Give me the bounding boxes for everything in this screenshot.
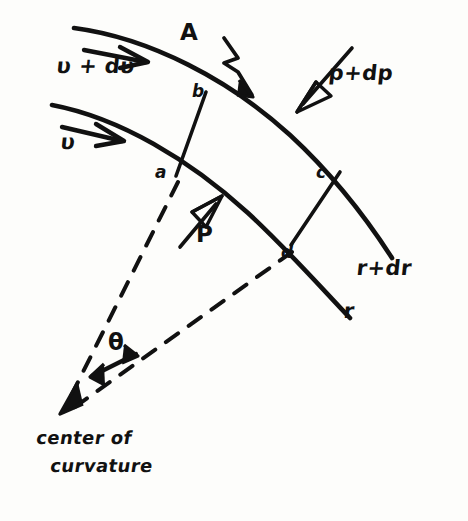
hand-drawn-diagram-canvas: υ + dυ υ A p+dp P r+dr r θ b a c d cente… [0, 0, 468, 521]
label-angle-theta: θ [108, 330, 124, 356]
label-center-of-curvature-line2: curvature [49, 456, 155, 476]
label-radius-inner: r [343, 300, 356, 324]
dashed-radius-from-a [60, 182, 178, 414]
label-area: A [180, 20, 198, 46]
label-point-c: c [316, 163, 326, 182]
label-center-of-curvature-line1: center of [35, 428, 134, 448]
label-point-a: a [155, 163, 167, 182]
label-pressure-outer: p+dp [328, 62, 395, 86]
radial-segment-b-a [176, 92, 206, 176]
label-velocity-outer: υ + dυ [56, 55, 136, 79]
label-point-b: b [192, 82, 205, 101]
label-pressure-inner: P [196, 222, 213, 248]
label-point-d: d [281, 243, 294, 262]
radial-segment-c-d [291, 172, 340, 245]
label-radius-outer: r+dr [356, 257, 413, 281]
label-velocity-inner: υ [60, 131, 77, 155]
